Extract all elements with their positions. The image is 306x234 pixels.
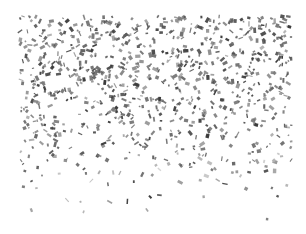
confetti-piece <box>183 45 187 48</box>
confetti-piece <box>247 16 251 19</box>
confetti-piece <box>196 96 200 100</box>
confetti-piece <box>247 92 250 95</box>
confetti-piece <box>195 77 201 82</box>
confetti-piece <box>153 117 155 122</box>
confetti-piece <box>128 151 130 153</box>
confetti-piece <box>169 133 173 137</box>
confetti-piece <box>42 29 46 31</box>
confetti-piece <box>199 179 202 182</box>
confetti-piece <box>120 93 124 97</box>
confetti-piece <box>189 163 191 166</box>
confetti-piece <box>263 104 265 109</box>
confetti-piece <box>39 117 43 122</box>
confetti-piece <box>157 167 161 171</box>
confetti-piece <box>39 72 41 75</box>
confetti-piece <box>148 195 152 199</box>
confetti-piece <box>175 150 178 153</box>
confetti-piece <box>270 133 274 137</box>
confetti-piece <box>285 126 290 128</box>
confetti-piece <box>129 101 132 103</box>
confetti-piece <box>286 72 288 76</box>
confetti-piece <box>134 141 139 145</box>
confetti-piece <box>82 77 85 81</box>
confetti-piece <box>34 24 38 28</box>
confetti-piece <box>78 132 83 135</box>
confetti-piece <box>213 20 215 24</box>
confetti-piece <box>132 66 137 71</box>
confetti-piece <box>263 93 265 96</box>
confetti-piece <box>248 35 253 41</box>
confetti-piece <box>79 51 85 56</box>
confetti-piece <box>38 18 42 24</box>
confetti-piece <box>190 48 194 52</box>
confetti-piece <box>278 52 281 55</box>
confetti-piece <box>144 19 149 25</box>
confetti-piece <box>247 171 251 174</box>
confetti-piece <box>211 61 215 66</box>
confetti-piece <box>53 142 57 148</box>
confetti-piece <box>247 69 251 73</box>
confetti-piece <box>193 148 196 150</box>
confetti-piece <box>189 28 191 33</box>
confetti-piece <box>24 40 26 42</box>
confetti-piece <box>131 114 134 117</box>
confetti-piece <box>149 44 152 47</box>
confetti-piece <box>41 70 45 74</box>
confetti-piece <box>95 29 98 31</box>
confetti-piece <box>145 208 149 212</box>
confetti-piece <box>89 75 93 81</box>
confetti-piece <box>199 108 201 111</box>
confetti-piece <box>267 73 272 78</box>
confetti-piece <box>41 174 43 176</box>
confetti-piece <box>57 39 61 42</box>
confetti-piece <box>210 44 213 48</box>
confetti-piece <box>73 23 78 27</box>
confetti-piece <box>269 83 273 86</box>
confetti-piece <box>47 34 52 37</box>
confetti-piece <box>278 64 281 67</box>
confetti-piece <box>290 140 293 142</box>
confetti-piece <box>173 36 175 40</box>
confetti-piece <box>86 20 91 26</box>
confetti-piece <box>57 146 60 149</box>
confetti-piece <box>58 29 61 31</box>
confetti-piece <box>156 28 159 31</box>
confetti-piece <box>61 40 64 44</box>
confetti-piece <box>123 134 125 137</box>
confetti-piece <box>134 70 139 73</box>
confetti-piece <box>211 106 213 109</box>
confetti-piece <box>213 113 218 118</box>
confetti-piece <box>225 55 228 57</box>
confetti-piece <box>59 31 64 36</box>
confetti-piece <box>213 32 216 35</box>
confetti-piece <box>96 101 100 104</box>
confetti-piece <box>183 63 187 67</box>
confetti-piece <box>163 17 166 20</box>
confetti-piece <box>280 77 282 80</box>
confetti-piece <box>248 31 249 34</box>
confetti-piece <box>281 56 283 59</box>
confetti-piece <box>63 31 66 35</box>
confetti-piece <box>190 23 192 25</box>
confetti-piece <box>79 61 82 66</box>
confetti-piece <box>268 58 271 60</box>
confetti-piece <box>215 83 218 86</box>
confetti-piece <box>38 56 43 62</box>
confetti-piece <box>112 45 115 48</box>
confetti-piece <box>43 129 48 133</box>
confetti-piece <box>174 16 178 19</box>
confetti-piece <box>90 18 93 21</box>
confetti-piece <box>30 180 33 183</box>
confetti-piece <box>226 159 229 163</box>
confetti-piece <box>20 106 22 108</box>
confetti-piece <box>17 29 22 33</box>
confetti-piece <box>235 170 238 173</box>
confetti-piece <box>257 99 261 102</box>
confetti-piece <box>90 28 92 32</box>
confetti-piece <box>214 27 217 30</box>
confetti-piece <box>177 152 179 155</box>
confetti-piece <box>189 69 194 72</box>
confetti-piece <box>121 115 123 119</box>
confetti-piece <box>210 100 215 105</box>
confetti-piece <box>198 71 203 76</box>
